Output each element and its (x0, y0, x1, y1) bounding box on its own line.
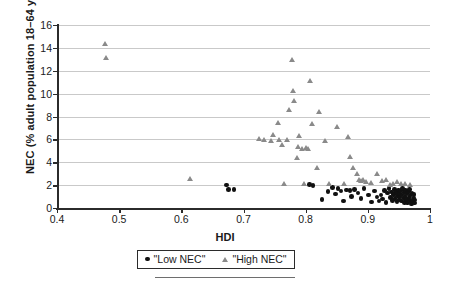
data-point-low-nec (341, 199, 346, 204)
gridline (57, 71, 430, 72)
x-tick-mark (430, 209, 431, 213)
data-point-high-nec (270, 132, 276, 137)
data-point-high-nec (341, 181, 347, 186)
legend-item-high-nec[interactable]: "High NEC" (222, 253, 286, 265)
data-point-high-nec (281, 181, 287, 186)
data-point-high-nec (290, 88, 296, 93)
legend-item-low-nec[interactable]: "Low NEC" (145, 253, 205, 265)
y-tick-mark (53, 117, 57, 118)
data-point-low-nec (349, 194, 354, 199)
y-tick-label: 10 (26, 89, 52, 99)
data-point-high-nec (286, 107, 292, 112)
circle-marker-icon (145, 257, 150, 262)
x-tick-label: 1 (427, 214, 433, 224)
data-point-high-nec (294, 155, 300, 160)
x-tick-label: 0.9 (361, 214, 376, 224)
x-tick-label: 0.6 (174, 214, 189, 224)
x-tick-label: 0.4 (50, 214, 65, 224)
data-point-low-nec (412, 192, 417, 197)
data-point-high-nec (345, 134, 351, 139)
data-point-low-nec (226, 187, 231, 192)
y-tick-label: 14 (26, 43, 52, 53)
y-tick-label: 0 (26, 203, 52, 213)
data-point-high-nec (326, 181, 332, 186)
y-tick-mark (53, 162, 57, 163)
data-point-high-nec (368, 180, 374, 185)
data-point-high-nec (334, 124, 340, 129)
data-point-high-nec (307, 78, 313, 83)
data-point-high-nec (347, 154, 353, 159)
gridline (57, 117, 430, 118)
y-tick-label: 6 (26, 134, 52, 144)
data-point-high-nec (305, 146, 311, 151)
y-tick-mark (53, 25, 57, 26)
y-tick-label: 8 (26, 112, 52, 122)
gridline (57, 185, 430, 186)
data-point-high-nec (102, 41, 108, 46)
y-axis-tick-labels: 0246810121416 (22, 0, 52, 287)
data-point-high-nec (103, 55, 109, 60)
y-tick-label: 2 (26, 180, 52, 190)
y-tick-mark (53, 71, 57, 72)
y-tick-mark (53, 139, 57, 140)
y-axis-line (57, 24, 59, 209)
x-tick-mark (306, 209, 307, 213)
y-tick-label: 16 (26, 20, 52, 30)
gridline (57, 139, 430, 140)
data-point-low-nec (384, 200, 389, 205)
plot-area (57, 25, 430, 208)
legend-label-low-nec: "Low NEC" (154, 253, 206, 265)
data-point-high-nec (261, 137, 267, 142)
x-tick-mark (119, 209, 120, 213)
chart-legend: "Low NEC" "High NEC" (137, 250, 295, 269)
data-point-high-nec (289, 57, 295, 62)
y-tick-label: 4 (26, 157, 52, 167)
x-tick-label: 0.8 (298, 214, 313, 224)
data-point-low-nec (366, 193, 371, 198)
data-point-high-nec (354, 171, 360, 176)
y-tick-label: 12 (26, 66, 52, 76)
data-point-low-nec (348, 188, 353, 193)
data-point-high-nec (279, 142, 285, 147)
data-point-high-nec (268, 138, 274, 143)
data-point-low-nec (333, 192, 338, 197)
data-point-high-nec (284, 137, 290, 142)
data-point-high-nec (275, 120, 281, 125)
data-point-high-nec (309, 121, 315, 126)
scatter-chart-figure: NEC (% adult population 18–64 years old)… (0, 0, 450, 287)
bottom-divider (155, 277, 295, 278)
y-tick-mark (53, 48, 57, 49)
triangle-marker-icon (222, 257, 228, 262)
legend-label-high-nec: "High NEC" (232, 253, 286, 265)
data-point-low-nec (359, 196, 364, 201)
gridline (57, 25, 430, 26)
data-point-high-nec (407, 182, 413, 187)
x-tick-label: 0.7 (236, 214, 251, 224)
x-axis-tick-labels: 0.40.50.60.70.80.91 (0, 214, 450, 228)
gridline (57, 162, 430, 163)
gridline (57, 94, 430, 95)
x-tick-mark (244, 209, 245, 213)
data-point-high-nec (322, 138, 328, 143)
x-tick-label: 0.5 (112, 214, 127, 224)
data-point-high-nec (316, 109, 322, 114)
x-tick-mark (368, 209, 369, 213)
data-point-low-nec (320, 197, 325, 202)
data-point-high-nec (314, 165, 320, 170)
data-point-high-nec (291, 98, 297, 103)
y-tick-mark (53, 185, 57, 186)
data-point-high-nec (374, 171, 380, 176)
data-point-high-nec (350, 165, 356, 170)
data-point-high-nec (301, 181, 307, 186)
gridline (57, 48, 430, 49)
x-tick-mark (181, 209, 182, 213)
x-axis-title: HDI (0, 231, 450, 243)
data-point-high-nec (296, 133, 302, 138)
data-point-high-nec (187, 176, 193, 181)
y-tick-mark (53, 94, 57, 95)
x-tick-mark (57, 209, 58, 213)
